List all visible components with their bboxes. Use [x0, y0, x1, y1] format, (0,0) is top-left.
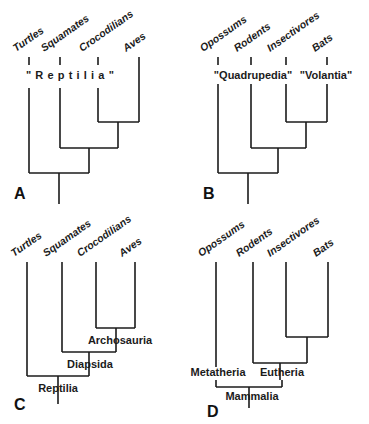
taxon-label-bats: Bats [310, 236, 336, 259]
clade-label-mammalia: Mammalia [225, 390, 279, 402]
clade-label-metatheria: Metatheria [190, 366, 246, 378]
grade-label-volantia: "Volantia" [300, 69, 352, 81]
panel-d-clade-labels: Metatheria Eutheria Mammalia [190, 366, 304, 402]
taxon-label-turtles: Turtles [8, 229, 44, 259]
panel-d: Opossums Rodents Insectivores Bats [185, 212, 369, 424]
clade-label-reptilia: Reptilia [38, 382, 79, 394]
panel-letter-d: D [207, 403, 219, 420]
panel-a: Turtles Squamates Crocodilians Aves "Rep… [0, 0, 184, 212]
panel-c-svg: Turtles Squamates Crocodilians Aves Arch… [0, 212, 184, 424]
clade-label-archosauria: Archosauria [88, 334, 153, 346]
panel-a-svg: Turtles Squamates Crocodilians Aves "Rep… [0, 0, 184, 212]
grade-label-reptilia: "Reptilia" [26, 69, 118, 81]
panel-a-branches [29, 88, 139, 204]
taxon-label-aves: Aves [119, 29, 147, 54]
panel-a-taxon-labels: Turtles Squamates Crocodilians Aves [10, 7, 148, 54]
panel-b-ticks [218, 57, 327, 65]
panel-b: Opossums Rodents Insectivores Bats "Quad… [185, 0, 369, 212]
panel-d-taxon-labels: Opossums Rodents Insectivores Bats [195, 214, 336, 259]
panel-d-branches [216, 262, 328, 408]
taxon-label-aves: Aves [115, 234, 143, 259]
panel-letter-c: C [14, 396, 26, 413]
panel-letter-a: A [14, 185, 26, 202]
taxon-label-bats: Bats [309, 31, 335, 54]
clade-label-diapsida: Diapsida [67, 358, 114, 370]
grade-label-quadrupedia: "Quadrupedia" [214, 69, 292, 81]
panel-letter-b: B [203, 185, 215, 202]
panel-c: Turtles Squamates Crocodilians Aves Arch… [0, 212, 184, 424]
panel-b-branches [218, 84, 327, 204]
clade-label-eutheria: Eutheria [260, 366, 305, 378]
panel-c-taxon-labels: Turtles Squamates Crocodilians Aves [8, 212, 144, 259]
cladogram-figure: Turtles Squamates Crocodilians Aves "Rep… [0, 0, 369, 424]
panel-b-taxon-labels: Opossums Rodents Insectivores Bats [197, 9, 335, 54]
panel-c-clade-labels: Archosauria Diapsida Reptilia [38, 334, 153, 394]
taxon-label-turtles: Turtles [10, 24, 46, 54]
panel-b-svg: Opossums Rodents Insectivores Bats "Quad… [185, 0, 369, 212]
panel-d-svg: Opossums Rodents Insectivores Bats [185, 212, 369, 424]
